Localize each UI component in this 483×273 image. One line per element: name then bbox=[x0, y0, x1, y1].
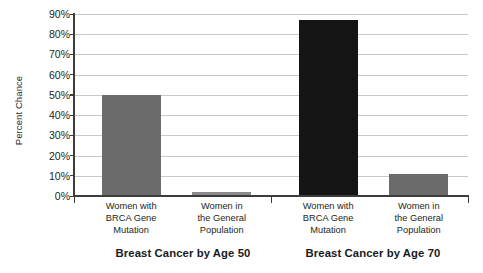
category-label-line: BRCA Gene bbox=[282, 212, 374, 224]
group-title: Breast Cancer by Age 50 bbox=[73, 247, 293, 259]
category-label-line: Mutation bbox=[282, 224, 374, 236]
y-axis-tick-label: 0% bbox=[26, 190, 70, 202]
category-label-line: Women with bbox=[85, 200, 177, 212]
category-label-line: BRCA Gene bbox=[85, 212, 177, 224]
bar bbox=[299, 20, 358, 196]
category-label-line: Women with bbox=[282, 200, 374, 212]
y-axis-tick-label: 40% bbox=[26, 109, 70, 121]
bar bbox=[389, 174, 448, 196]
x-axis-tick-mark bbox=[74, 196, 75, 203]
plot-area bbox=[74, 14, 468, 196]
category-label-line: Mutation bbox=[85, 224, 177, 236]
y-axis-tick-label: 50% bbox=[26, 89, 70, 101]
y-axis-tick-label: 20% bbox=[26, 150, 70, 162]
category-label-line: Women in bbox=[176, 200, 268, 212]
category-label-line: Population bbox=[176, 224, 268, 236]
y-axis-tick-label: 70% bbox=[26, 48, 70, 60]
gridline bbox=[74, 54, 468, 55]
x-axis-tick-mark bbox=[468, 196, 469, 203]
category-label: Women inthe GeneralPopulation bbox=[373, 200, 465, 237]
y-axis-tick-label: 30% bbox=[26, 129, 70, 141]
y-axis-tick-label: 80% bbox=[26, 28, 70, 40]
category-label: Women withBRCA GeneMutation bbox=[85, 200, 177, 237]
category-label: Women inthe GeneralPopulation bbox=[176, 200, 268, 237]
y-axis-tick-label: 90% bbox=[26, 8, 70, 20]
y-axis-tick-label: 10% bbox=[26, 170, 70, 182]
category-label-line: the General bbox=[176, 212, 268, 224]
category-label: Women withBRCA GeneMutation bbox=[282, 200, 374, 237]
y-axis-tick-labels: 0%10%20%30%40%50%60%70%80%90% bbox=[20, 14, 70, 196]
x-axis-tick-mark bbox=[271, 196, 272, 203]
category-label-line: Women in bbox=[373, 200, 465, 212]
gridline bbox=[74, 75, 468, 76]
y-axis-tick-label: 60% bbox=[26, 69, 70, 81]
bar bbox=[102, 95, 161, 196]
bar-chart: Percent Chance 0%10%20%30%40%50%60%70%80… bbox=[0, 0, 483, 273]
gridline bbox=[74, 14, 468, 15]
category-label-line: Population bbox=[373, 224, 465, 236]
category-label-line: the General bbox=[373, 212, 465, 224]
group-title: Breast Cancer by Age 70 bbox=[263, 247, 483, 259]
y-axis-line bbox=[73, 13, 75, 197]
gridline bbox=[74, 34, 468, 35]
